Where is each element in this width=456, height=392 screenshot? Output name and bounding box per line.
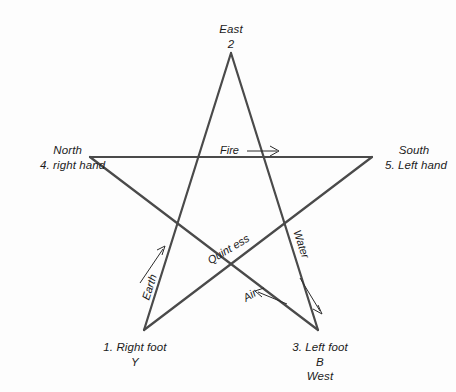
east-number: 2 xyxy=(219,37,242,52)
right-foot-body-part: 1. Right foot xyxy=(103,341,166,353)
star-line-bottom-right-to-left xyxy=(90,157,318,330)
pentagram-diagram: East 2 North 4. right hand South 5. Left… xyxy=(0,0,456,392)
star-line-right-to-bottom-left xyxy=(144,157,372,330)
air-arrow-icon xyxy=(255,288,287,304)
right-foot-letter: Y xyxy=(103,355,166,370)
point-label-left-foot: 3. Left foot B West xyxy=(292,340,348,384)
pentagram-lines xyxy=(0,0,456,392)
point-label-right-foot: 1. Right foot Y xyxy=(103,340,166,369)
north-direction: North xyxy=(40,143,105,158)
east-direction: East xyxy=(219,23,242,35)
left-foot-body-part: 3. Left foot xyxy=(292,341,348,353)
south-direction: South xyxy=(385,143,447,158)
star-strokes xyxy=(90,53,372,330)
star-line-bottom-left-to-top xyxy=(144,53,231,330)
left-foot-letter: B xyxy=(292,355,348,370)
element-label-fire: Fire xyxy=(220,144,239,156)
point-label-south: South 5. Left hand xyxy=(385,143,447,172)
point-label-north: North 4. right hand xyxy=(40,143,105,172)
star-line-top-to-bottom-right xyxy=(231,53,318,330)
point-label-east: East 2 xyxy=(219,22,242,51)
west-direction: West xyxy=(292,369,348,384)
south-body-part: 5. Left hand xyxy=(385,158,447,173)
north-body-part: 4. right hand xyxy=(40,158,105,173)
